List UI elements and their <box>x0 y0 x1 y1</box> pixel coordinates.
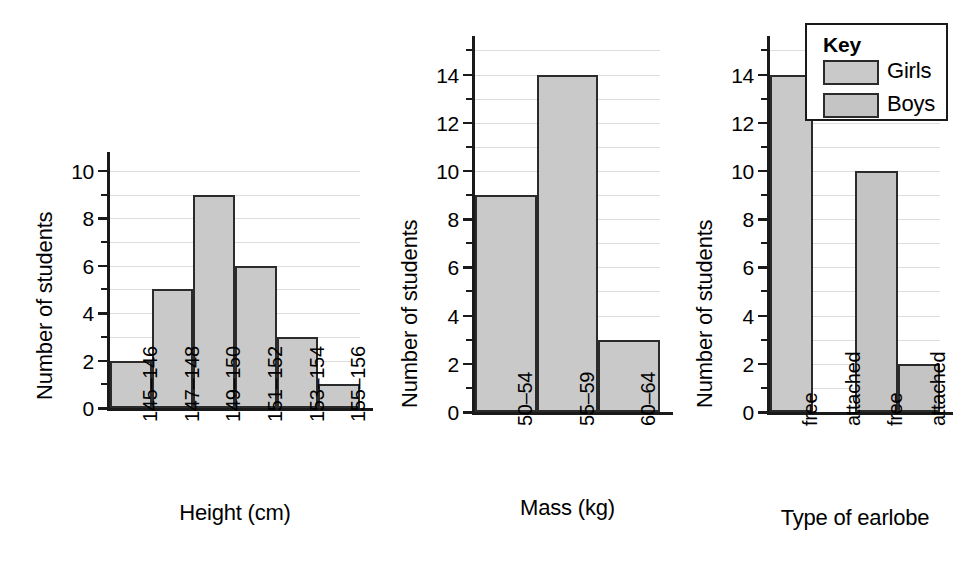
chart2-x-axis-title: Mass (kg) <box>435 495 700 521</box>
chart2-y-tick-major <box>463 266 472 269</box>
chart1-y-tick-label: 8 <box>38 208 94 229</box>
chart2-y-tick-minor <box>466 49 472 51</box>
chart2-y-tick-minor <box>466 98 472 100</box>
chart3-x-tick-label: free <box>884 393 907 426</box>
chart3-y-tick-minor <box>761 194 767 196</box>
chart2-y-tick-label: 4 <box>403 306 459 327</box>
chart3-y-tick-major <box>758 74 767 77</box>
chart1-y-tick-major <box>98 217 107 220</box>
figure-root: Number of students 0246810145–146147–148… <box>0 0 960 579</box>
chart1-y-tick-major <box>98 407 107 410</box>
chart1-y-tick-label: 0 <box>38 398 94 419</box>
chart2-y-axis-line <box>472 36 475 415</box>
chart3-y-tick-major <box>758 218 767 221</box>
chart1-x-tick-label: 153–154 <box>306 346 329 422</box>
chart1-y-tick-minor <box>101 336 107 338</box>
chart1-x-tick-label: 155–156 <box>347 346 370 422</box>
chart1-y-tick-label: 6 <box>38 256 94 277</box>
chart2-y-tick-major <box>463 315 472 318</box>
chart2-y-tick-major <box>463 363 472 366</box>
chart1-gridline <box>110 242 360 243</box>
chart1-gridline <box>110 171 360 172</box>
chart3-y-axis-line <box>767 36 770 415</box>
chart2-x-tick-label: 50–54 <box>514 372 537 426</box>
chart2-y-tick-minor <box>466 146 472 148</box>
chart3-y-tick-major <box>758 122 767 125</box>
chart3-y-tick-minor <box>761 49 767 51</box>
chart3-y-tick-major <box>758 411 767 414</box>
chart-height-histogram: Number of students 0246810145–146147–148… <box>0 0 375 579</box>
legend-title: Key <box>823 33 861 57</box>
chart3-x-tick-label: free <box>799 393 822 426</box>
chart2-y-tick-label: 12 <box>403 113 459 134</box>
chart1-y-tick-label: 10 <box>38 161 94 182</box>
chart3-y-tick-label: 10 <box>698 161 754 182</box>
chart1-y-tick-major <box>98 312 107 315</box>
chart2-y-tick-minor <box>466 339 472 341</box>
chart3-bar <box>770 75 813 412</box>
chart2-y-tick-major <box>463 74 472 77</box>
chart1-gridline <box>110 195 360 196</box>
chart2-plot-area: 0246810121450–5455–5960–64 <box>475 36 660 412</box>
chart2-y-tick-label: 2 <box>403 354 459 375</box>
chart3-y-tick-label: 0 <box>698 402 754 423</box>
chart3-x-axis-title: Type of earlobe <box>730 505 960 531</box>
chart2-x-tick-label: 60–64 <box>637 372 660 426</box>
chart2-y-tick-label: 6 <box>403 257 459 278</box>
chart1-x-tick-label: 149–150 <box>222 346 245 422</box>
chart-mass-histogram: Number of students 0246810121450–5455–59… <box>375 0 675 579</box>
chart2-y-tick-minor <box>466 387 472 389</box>
chart3-y-tick-label: 14 <box>698 65 754 86</box>
chart3-y-tick-label: 8 <box>698 209 754 230</box>
chart1-y-tick-minor <box>101 288 107 290</box>
chart1-y-tick-label: 4 <box>38 303 94 324</box>
chart2-y-tick-minor <box>466 194 472 196</box>
chart3-y-tick-major <box>758 266 767 269</box>
chart2-y-tick-label: 0 <box>403 402 459 423</box>
chart2-y-tick-label: 14 <box>403 65 459 86</box>
chart1-gridline <box>110 218 360 219</box>
chart1-x-tick-label: 147–148 <box>181 346 204 422</box>
chart1-y-tick-minor <box>101 241 107 243</box>
chart2-y-tick-major <box>463 122 472 125</box>
chart1-x-axis-title: Height (cm) <box>70 500 400 526</box>
chart3-y-tick-label: 12 <box>698 113 754 134</box>
chart3-y-tick-minor <box>761 339 767 341</box>
legend-swatch-boys <box>823 93 879 118</box>
chart1-x-tick-label: 151–152 <box>264 346 287 422</box>
legend-label-girls: Girls <box>887 58 931 84</box>
chart3-y-tick-minor <box>761 387 767 389</box>
chart2-y-tick-minor <box>466 290 472 292</box>
chart2-y-tick-minor <box>466 242 472 244</box>
chart2-y-tick-label: 8 <box>403 209 459 230</box>
chart3-y-tick-major <box>758 170 767 173</box>
chart1-y-tick-minor <box>101 383 107 385</box>
chart2-y-tick-major <box>463 218 472 221</box>
legend-key-box: Key Girls Boys <box>805 23 948 121</box>
chart2-y-tick-label: 10 <box>403 161 459 182</box>
chart3-y-tick-label: 4 <box>698 306 754 327</box>
chart1-y-tick-minor <box>101 194 107 196</box>
chart2-y-tick-major <box>463 170 472 173</box>
chart3-y-tick-major <box>758 363 767 366</box>
legend-swatch-girls <box>823 60 879 85</box>
chart2-bar <box>537 75 599 412</box>
chart-earlobe-barchart: Number of students 02468101214freeattach… <box>675 0 960 579</box>
chart3-y-tick-major <box>758 315 767 318</box>
chart1-y-tick-major <box>98 170 107 173</box>
chart3-y-tick-label: 6 <box>698 257 754 278</box>
chart3-y-tick-minor <box>761 98 767 100</box>
chart3-y-tick-minor <box>761 290 767 292</box>
chart1-y-axis-line <box>107 152 110 411</box>
chart1-y-tick-major <box>98 360 107 363</box>
chart2-gridline <box>475 50 660 51</box>
chart2-y-tick-major <box>463 411 472 414</box>
chart3-y-tick-minor <box>761 242 767 244</box>
chart1-y-tick-label: 2 <box>38 351 94 372</box>
chart3-x-tick-label: attached <box>842 352 865 426</box>
legend-label-boys: Boys <box>887 91 935 117</box>
chart3-x-tick-label: attached <box>927 352 950 426</box>
chart2-x-tick-label: 55–59 <box>576 372 599 426</box>
chart1-plot-area: 0246810145–146147–148149–150151–152153–1… <box>110 152 360 408</box>
chart3-y-tick-minor <box>761 146 767 148</box>
